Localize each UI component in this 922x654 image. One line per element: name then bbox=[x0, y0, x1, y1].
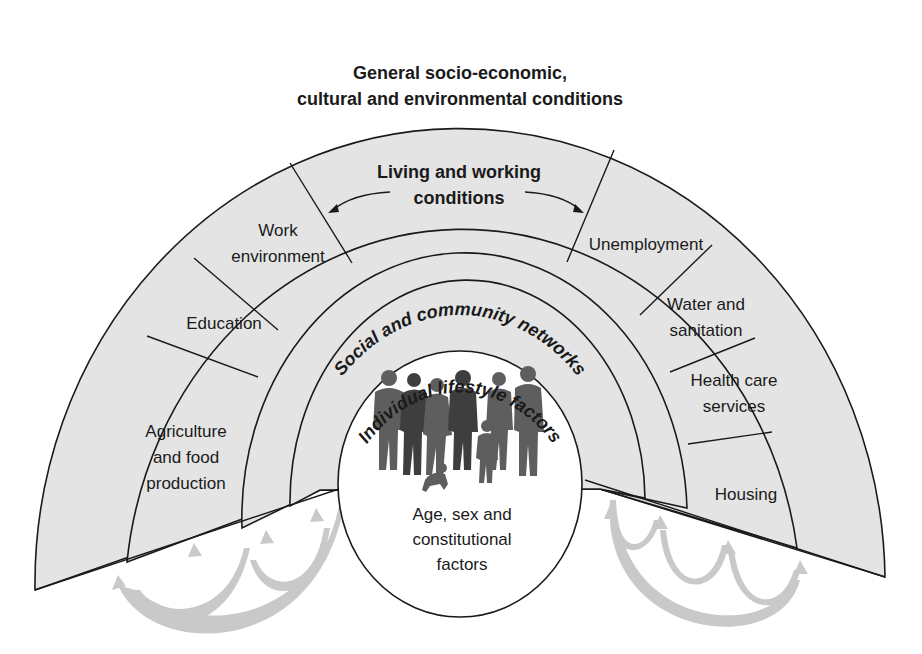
svg-text:constitutional: constitutional bbox=[412, 530, 511, 549]
svg-text:Unemployment: Unemployment bbox=[589, 235, 704, 254]
svg-text:production: production bbox=[146, 474, 225, 493]
svg-text:Health care: Health care bbox=[691, 371, 778, 390]
svg-text:services: services bbox=[703, 397, 765, 416]
segment-education: Education bbox=[186, 314, 262, 333]
svg-text:Water and: Water and bbox=[667, 295, 745, 314]
svg-text:Agriculture: Agriculture bbox=[145, 422, 226, 441]
svg-text:sanitation: sanitation bbox=[670, 321, 743, 340]
living-working-title-2: conditions bbox=[414, 188, 505, 208]
svg-text:Work: Work bbox=[258, 221, 298, 240]
diagram-canvas: General socio-economic, cultural and env… bbox=[0, 0, 922, 654]
svg-text:Age, sex and: Age, sex and bbox=[412, 505, 511, 524]
svg-text:factors: factors bbox=[436, 555, 487, 574]
living-working-title-1: Living and working bbox=[377, 162, 541, 182]
segment-housing: Housing bbox=[715, 485, 777, 504]
health-determinants-diagram: General socio-economic, cultural and env… bbox=[0, 0, 922, 654]
outer-band-title-2: cultural and environmental conditions bbox=[297, 89, 623, 109]
svg-text:Housing: Housing bbox=[715, 485, 777, 504]
svg-text:and food: and food bbox=[153, 448, 219, 467]
segment-agriculture: Agriculture and food production bbox=[145, 422, 226, 493]
svg-text:Education: Education bbox=[186, 314, 262, 333]
outer-band-title-1: General socio-economic, bbox=[353, 63, 567, 83]
svg-text:environment: environment bbox=[231, 247, 325, 266]
segment-unemployment: Unemployment bbox=[589, 235, 704, 254]
